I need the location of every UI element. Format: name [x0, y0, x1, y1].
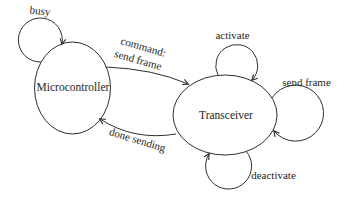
deactivate-edge-label: deactivate	[251, 169, 296, 181]
activate-edge-label: activate	[215, 29, 249, 41]
send-frame-self-loop-arrow	[272, 85, 324, 141]
microcontroller-state-label: Microcontroller	[37, 81, 110, 93]
send-frame-edge-label: send frame	[282, 76, 331, 88]
state-diagram: Microcontroller Transceiver busy command…	[0, 0, 348, 200]
state-diagram-canvas: Microcontroller Transceiver busy command…	[0, 0, 348, 200]
command-send-frame-arrow	[106, 67, 188, 84]
command-send-frame-edge-label: command: send frame	[113, 34, 167, 72]
done-sending-edge-label: done sending	[108, 125, 168, 154]
transceiver-state-label: Transceiver	[199, 109, 253, 121]
busy-edge-label: busy	[29, 3, 52, 18]
deactivate-self-loop-arrow	[206, 151, 252, 189]
busy-self-loop-arrow	[18, 18, 62, 62]
